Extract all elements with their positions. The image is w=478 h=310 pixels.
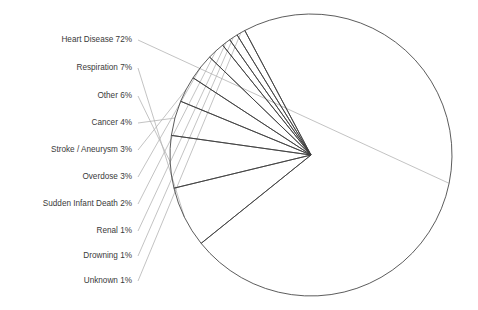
pie-chart-figure: Heart Disease 72%Respiration 7%Other 6%C… [0, 0, 478, 310]
pie-chart-page: Heart Disease 72%Respiration 7%Other 6%C… [0, 0, 478, 310]
pie-slice[interactable] [210, 45, 311, 155]
pie-slice-label: Other 6% [97, 91, 132, 100]
leader-line-group [138, 33, 449, 281]
pie-slice[interactable] [201, 14, 452, 296]
pie-slice[interactable] [170, 135, 311, 188]
pie-slice-label: Drowning 1% [83, 251, 132, 260]
pie-wedge-group [170, 14, 452, 296]
pie-slice-label: Respiration 7% [76, 63, 132, 72]
leader-line [138, 68, 184, 217]
leader-line [138, 89, 186, 150]
pie-slice-label: Overdose 3% [82, 172, 132, 181]
pie-slice[interactable] [223, 40, 311, 155]
pie-slice-label: Cancer 4% [91, 118, 132, 127]
pie-slice[interactable] [174, 155, 311, 243]
pie-slice[interactable] [230, 35, 311, 155]
leader-line [138, 33, 241, 281]
pie-slice-label: Heart Disease 72% [61, 35, 132, 44]
pie-slice-label: Renal 1% [96, 226, 132, 235]
pie-slice-label: Sudden Infant Death 2% [43, 199, 132, 208]
pie-label-group: Heart Disease 72%Respiration 7%Other 6%C… [43, 35, 132, 285]
leader-line [138, 37, 233, 256]
pie-slice[interactable] [237, 31, 311, 156]
pie-slice-label: Unknown 1% [84, 276, 132, 285]
pie-slice-label: Stroke / Aneurysm 3% [51, 145, 132, 154]
